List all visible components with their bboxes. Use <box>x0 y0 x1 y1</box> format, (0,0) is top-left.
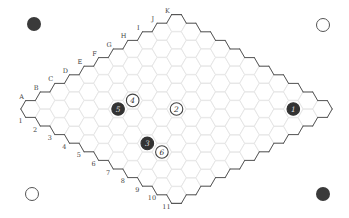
stone-move-number: 3 <box>145 139 150 148</box>
row-label-8: 8 <box>121 177 125 185</box>
column-label-H: H <box>121 32 127 40</box>
row-label-6: 6 <box>91 160 95 168</box>
row-label-4: 4 <box>62 143 66 151</box>
stone-white-4: 4 <box>126 94 139 107</box>
row-label-7: 7 <box>106 169 110 177</box>
stone-black-1: 1 <box>287 103 300 116</box>
stone-move-number: 1 <box>291 105 296 114</box>
column-label-K: K <box>165 7 170 15</box>
column-label-C: C <box>48 75 53 83</box>
stone-move-number: 6 <box>160 148 165 157</box>
column-label-F: F <box>92 50 97 58</box>
row-label-2: 2 <box>33 126 37 134</box>
row-label-10: 10 <box>148 194 156 202</box>
hex-board[interactable]: ABCDEFGHIJK1234567891011 123456 <box>0 0 349 218</box>
column-label-J: J <box>151 15 155 23</box>
column-label-E: E <box>78 58 83 66</box>
stone-white-2: 2 <box>170 103 183 116</box>
column-label-B: B <box>34 84 39 92</box>
column-label-D: D <box>63 67 68 75</box>
column-label-A: A <box>18 93 24 101</box>
stone-move-number: 2 <box>173 105 179 114</box>
row-label-1: 1 <box>18 117 22 125</box>
stone-black-5: 5 <box>112 103 125 116</box>
stone-white-6: 6 <box>156 146 169 159</box>
row-label-5: 5 <box>77 151 81 159</box>
row-label-3: 3 <box>48 134 52 142</box>
column-label-I: I <box>137 24 140 32</box>
stone-black-3: 3 <box>141 137 154 150</box>
stone-move-number: 4 <box>129 96 135 105</box>
stone-move-number: 5 <box>116 105 121 114</box>
column-label-G: G <box>106 41 111 49</box>
row-label-11: 11 <box>162 203 170 211</box>
row-label-9: 9 <box>135 186 139 194</box>
